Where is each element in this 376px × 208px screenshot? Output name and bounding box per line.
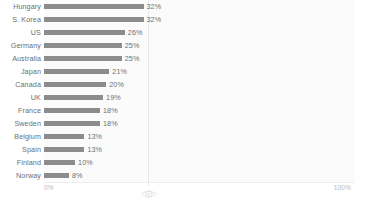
- bar-row: Hungary32%: [0, 0, 376, 13]
- category-label: Belgium: [0, 130, 44, 143]
- bar-chart: Hungary32%S. Korea32%US26%Germany25%Aust…: [0, 0, 376, 208]
- category-label: Finland: [0, 156, 44, 169]
- category-label: Japan: [0, 65, 44, 78]
- bar-row: Germany25%: [0, 39, 376, 52]
- bar-track: 32%: [44, 13, 376, 26]
- bar-rows: Hungary32%S. Korea32%US26%Germany25%Aust…: [0, 0, 376, 182]
- bar: [44, 147, 84, 153]
- bar-track: 25%: [44, 39, 376, 52]
- category-label: US: [0, 26, 44, 39]
- bar-value-label: 19%: [106, 91, 121, 104]
- axis-tick-min: 0%: [44, 184, 54, 191]
- bar-value-label: 21%: [112, 65, 127, 78]
- bar-value-label: 25%: [125, 39, 140, 52]
- category-label: UK: [0, 91, 44, 104]
- bar-track: 18%: [44, 104, 376, 117]
- category-label: France: [0, 104, 44, 117]
- bar-row: Finland10%: [0, 156, 376, 169]
- axis-tick-max: 100%: [334, 184, 351, 191]
- bar: [44, 134, 84, 140]
- bar-track: 20%: [44, 78, 376, 91]
- bar: [44, 17, 144, 23]
- category-label: Australia: [0, 52, 44, 65]
- bar-track: 18%: [44, 117, 376, 130]
- bar-value-label: 18%: [103, 104, 118, 117]
- bar-row: UK19%: [0, 91, 376, 104]
- bar-value-label: 13%: [87, 143, 102, 156]
- category-label: Norway: [0, 169, 44, 182]
- bar: [44, 43, 122, 49]
- bar-track: 26%: [44, 26, 376, 39]
- bar-value-label: 32%: [147, 0, 162, 13]
- category-label: Sweden: [0, 117, 44, 130]
- bar-value-label: 20%: [109, 78, 124, 91]
- bar-track: 19%: [44, 91, 376, 104]
- bar-value-label: 8%: [72, 169, 83, 182]
- value-axis: 0% 100%: [0, 184, 376, 196]
- bar: [44, 173, 69, 179]
- bar-row: Norway8%: [0, 169, 376, 182]
- bar-track: 8%: [44, 169, 376, 182]
- bar: [44, 108, 100, 114]
- bar-row: Canada20%: [0, 78, 376, 91]
- category-label: Canada: [0, 78, 44, 91]
- bar-row: Japan21%: [0, 65, 376, 78]
- bar: [44, 82, 106, 88]
- bar-row: Australia25%: [0, 52, 376, 65]
- bar-row: France18%: [0, 104, 376, 117]
- bar-row: US26%: [0, 26, 376, 39]
- bar: [44, 30, 125, 36]
- category-axis-line: [44, 182, 355, 183]
- flower-marker-icon: [141, 186, 157, 198]
- category-label: S. Korea: [0, 13, 44, 26]
- bar-track: 32%: [44, 0, 376, 13]
- bar: [44, 56, 122, 62]
- bar: [44, 95, 103, 101]
- bar: [44, 121, 100, 127]
- bar-value-label: 26%: [128, 26, 143, 39]
- bar-row: Belgium13%: [0, 130, 376, 143]
- bar-value-label: 10%: [78, 156, 93, 169]
- category-label: Hungary: [0, 0, 44, 13]
- bar-value-label: 32%: [147, 13, 162, 26]
- bar-track: 13%: [44, 130, 376, 143]
- bar-track: 13%: [44, 143, 376, 156]
- bar-row: Sweden18%: [0, 117, 376, 130]
- category-label: Spain: [0, 143, 44, 156]
- bar-value-label: 25%: [125, 52, 140, 65]
- bar: [44, 69, 109, 75]
- bar-track: 10%: [44, 156, 376, 169]
- bar-value-label: 18%: [103, 117, 118, 130]
- bar-row: S. Korea32%: [0, 13, 376, 26]
- bar-value-label: 13%: [87, 130, 102, 143]
- bar-track: 21%: [44, 65, 376, 78]
- bar: [44, 160, 75, 166]
- bar: [44, 4, 144, 10]
- bar-row: Spain13%: [0, 143, 376, 156]
- category-label: Germany: [0, 39, 44, 52]
- bar-track: 25%: [44, 52, 376, 65]
